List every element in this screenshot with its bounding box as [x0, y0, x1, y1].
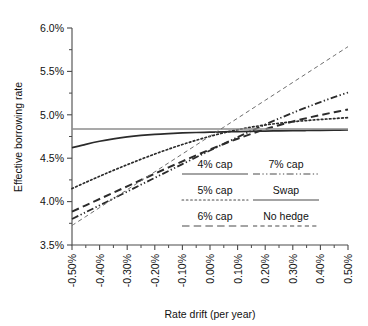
- x-tick-label: -0.40%: [94, 254, 106, 287]
- legend-label: 7% cap: [268, 158, 303, 170]
- legend-entry: 6% cap: [182, 210, 248, 226]
- legend-label: 5% cap: [197, 184, 232, 196]
- legend-label: Swap: [273, 184, 299, 196]
- y-axis-title: Effective borrowing rate: [12, 82, 24, 192]
- y-axis-tick-labels: 3.5%4.0%4.5%5.0%5.5%6.0%: [40, 22, 64, 251]
- x-axis-tick-labels: -0.50%-0.40%-0.30%-0.20%-0.10%0.00%0.10%…: [66, 254, 354, 287]
- series-line-4-cap: [72, 130, 348, 148]
- y-tick-label: 5.0%: [40, 109, 64, 121]
- data-series-group: [72, 47, 348, 226]
- chart-container: 3.5%4.0%4.5%5.0%5.5%6.0% -0.50%-0.40%-0.…: [0, 0, 368, 326]
- plot-area: 3.5%4.0%4.5%5.0%5.5%6.0% -0.50%-0.40%-0.…: [40, 22, 354, 287]
- effective-borrowing-rate-chart: 3.5%4.0%4.5%5.0%5.5%6.0% -0.50%-0.40%-0.…: [0, 0, 368, 326]
- y-tick-label: 4.0%: [40, 195, 64, 207]
- x-tick-label: 0.30%: [287, 254, 299, 284]
- legend-label: No hedge: [263, 210, 309, 222]
- y-tick-label: 6.0%: [40, 22, 64, 34]
- series-line-no-hedge: [72, 47, 348, 226]
- y-tick-label: 4.5%: [40, 152, 64, 164]
- series-line-5-cap: [72, 118, 348, 189]
- chart-legend: 4% cap7% cap5% capSwap6% capNo hedge: [182, 158, 319, 226]
- x-tick-label: 0.40%: [314, 254, 326, 284]
- x-axis-title: Rate drift (per year): [164, 308, 255, 320]
- x-tick-label: 0.10%: [232, 254, 244, 284]
- x-tick-label: 0.00%: [204, 254, 216, 284]
- x-tick-label: 0.50%: [342, 254, 354, 284]
- legend-entry: 4% cap: [182, 158, 248, 174]
- legend-label: 4% cap: [197, 158, 232, 170]
- legend-entry: Swap: [253, 184, 319, 200]
- legend-entry: No hedge: [253, 210, 319, 226]
- x-tick-label: -0.10%: [176, 254, 188, 287]
- y-tick-label: 5.5%: [40, 65, 64, 77]
- legend-label: 6% cap: [197, 210, 232, 222]
- y-tick-label: 3.5%: [40, 239, 64, 251]
- legend-entry: 7% cap: [253, 158, 319, 174]
- legend-entry: 5% cap: [182, 184, 248, 200]
- x-tick-label: -0.30%: [121, 254, 133, 287]
- x-tick-label: -0.20%: [149, 254, 161, 287]
- x-tick-label: -0.50%: [66, 254, 78, 287]
- x-tick-label: 0.20%: [259, 254, 271, 284]
